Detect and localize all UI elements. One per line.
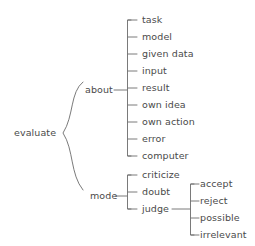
node-mode: mode — [90, 191, 117, 201]
node-doubt: doubt — [142, 187, 170, 197]
tree-diagram: evaluate about task model given data inp… — [0, 0, 255, 246]
node-judge: judge — [142, 204, 169, 214]
node-given-data: given data — [142, 49, 194, 59]
node-about: about — [85, 85, 113, 95]
tree-connector-lines — [0, 0, 255, 246]
node-own-action: own action — [142, 117, 195, 127]
node-task: task — [142, 15, 162, 25]
node-result: result — [142, 83, 169, 93]
node-evaluate: evaluate — [14, 128, 56, 138]
root-brace — [63, 82, 83, 190]
node-error: error — [142, 134, 166, 144]
judge-bracket — [191, 184, 195, 235]
node-criticize: criticize — [142, 170, 180, 180]
node-computer: computer — [142, 151, 189, 161]
node-own-idea: own idea — [142, 100, 186, 110]
node-reject: reject — [200, 196, 228, 206]
node-accept: accept — [200, 179, 232, 189]
node-input: input — [142, 66, 167, 76]
node-irrelevant: irrelevant — [200, 230, 247, 240]
node-model: model — [142, 32, 172, 42]
node-possible: possible — [200, 213, 240, 223]
